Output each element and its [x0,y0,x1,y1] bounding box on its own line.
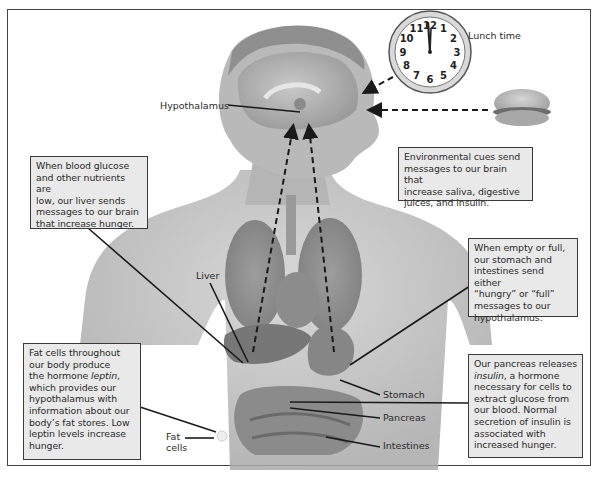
label-hypothalamus: Hypothalamus [160,100,229,111]
label-stomach: Stomach [383,389,425,400]
clock-numeral: 10 [400,33,414,44]
clock-numeral: 7 [413,70,420,81]
clock-numeral: 2 [450,33,457,44]
stomach-organ [308,327,354,376]
left-lung [225,220,285,330]
callout-liver: When blood glucose and other nutrients a… [30,156,148,229]
heart [275,272,319,328]
clock-numeral: 11 [410,23,424,34]
clock-numeral: 5 [440,70,447,81]
clock-numeral: 6 [427,74,434,85]
hamburger-icon [493,89,551,126]
brain-icon [238,52,358,129]
label-intestines: Intestines [383,440,430,451]
callout-pancreas-insulin: Our pancreas releases insulin, a hormone… [468,354,583,458]
clock-numeral: 12 [423,20,437,31]
callout-fat-cells-leptin: Fat cells throughout our body produce th… [23,343,141,460]
clock-numeral: 3 [454,47,461,58]
callout-stomach-intestines: When empty or full, our stomach and inte… [468,238,578,317]
callout-environmental-cues: Environmental cues send messages to our … [398,147,533,201]
clock-icon: 121234567891011 [389,11,471,93]
fat-cells-marker [217,431,227,441]
label-pancreas: Pancreas [383,412,426,423]
label-liver: Liver [196,270,219,281]
clock-numeral: 8 [403,60,410,71]
label-lunch-time: Lunch time [468,30,521,41]
hypothalamus-marker [294,98,306,110]
label-fat-cells: Fat cells [166,431,187,453]
clock-numeral: 9 [400,47,407,58]
clock-numeral: 4 [450,60,457,71]
clock-numeral: 1 [440,23,447,34]
